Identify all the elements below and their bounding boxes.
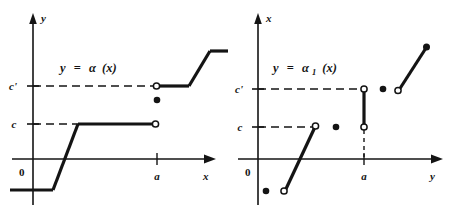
left-rising-branch-upper [189,51,210,86]
right-filled-dot-isolated-lower-left [263,188,270,195]
right-horizontal-axis-label: y [428,170,435,182]
left-function-lhs: y [58,61,66,75]
left-function-equals: = [74,61,81,75]
right-function-rhs-fn: α [302,61,310,75]
left-tick-label-a: a [154,170,160,182]
left-open-circle-at-c [152,121,158,127]
right-open-circle-upper-branch-start [395,87,401,93]
right-filled-dot-upper-branch-end [423,44,430,51]
right-function-lhs: y [271,61,279,75]
left-tick-label-c: c [12,118,17,130]
right-panel-plot: x y 0 c' c a [228,0,457,212]
left-filled-dot-value-at-a [154,97,161,104]
right-vertical-axis [254,13,262,205]
right-function-label: y = α 1 (x) [271,61,337,78]
left-panel: y x 0 c' c a [0,0,228,212]
left-tick-label-c-prime: c' [9,80,17,92]
right-rising-branch-upper [399,48,426,90]
right-tick-label-c: c [238,121,243,133]
left-open-circle-at-c-prime [153,83,159,89]
right-open-circle-vertical-bottom-at-c [361,124,367,130]
left-vertical-axis-label: y [39,12,46,24]
left-horizontal-axis-label: x [202,170,209,182]
left-function-rhs-arg: (x) [102,61,117,75]
right-function-subscript: 1 [312,67,316,77]
right-filled-dot-at-c-level [333,124,340,131]
left-panel-plot: y x 0 c' c a [0,0,228,212]
left-rising-branch-to-c [53,124,78,190]
left-function-rhs-fn: α [89,61,97,75]
left-function-label: y = α (x) [58,61,117,75]
right-tick-label-a: a [361,170,367,182]
figure-container: y x 0 c' c a [0,0,457,212]
right-horizontal-axis [238,155,443,164]
right-function-equals: = [287,61,294,75]
right-function-rhs-arg: (x) [322,61,337,75]
right-open-circle-lower-branch-start [281,188,287,194]
left-vertical-axis [29,13,37,205]
right-origin-label: 0 [245,166,251,178]
left-origin-label: 0 [19,166,25,178]
right-filled-dot-at-c-prime-level [380,86,387,93]
left-curve [10,51,228,190]
right-vertical-axis-label: x [265,12,272,24]
left-horizontal-axis [12,155,216,164]
right-open-circle-vertical-top-at-c-prime [361,86,367,92]
right-open-circle-lower-branch-end-at-c [312,123,318,129]
right-tick-label-c-prime: c' [235,83,243,95]
right-panel: x y 0 c' c a [228,0,457,212]
